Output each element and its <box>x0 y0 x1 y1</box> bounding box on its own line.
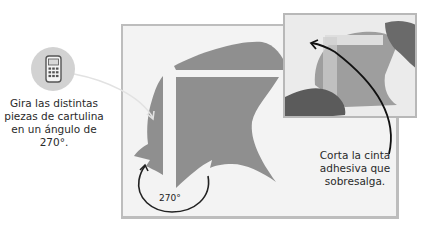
calculator-icon <box>31 47 75 91</box>
tape-pointer-line <box>312 43 391 154</box>
caption-line: piezas de cartulina <box>0 110 108 123</box>
caption-line: Corta la cinta <box>300 149 410 162</box>
caption-line: en un ángulo de <box>0 123 108 136</box>
caption-line: adhesiva que <box>300 162 410 175</box>
caption-line: Gira las distintas <box>0 97 108 110</box>
cut-tape-caption: Corta la cinta adhesiva que sobresalga. <box>300 149 410 188</box>
rotate-instruction-caption: Gira las distintas piezas de cartulina e… <box>0 97 108 149</box>
rotation-angle-label: 270° <box>159 193 181 203</box>
caption-line: sobresalga. <box>300 175 410 188</box>
caption-line: 270°. <box>0 136 108 149</box>
